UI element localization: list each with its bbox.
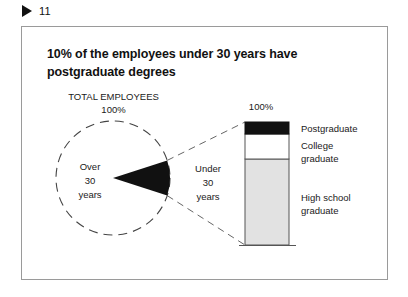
bar-segment-highschool: [245, 159, 289, 245]
bar-chart-caption: 100%: [228, 101, 294, 112]
pie-slice-under-30: [113, 160, 170, 195]
pie-label-under-30: Under 30 years: [183, 162, 233, 203]
legend-label-college-line2: graduate: [301, 153, 339, 166]
legend-label-highschool-line2: graduate: [301, 205, 351, 218]
bar-segment-postgraduate: [245, 122, 289, 134]
legend-label-postgraduate: Postgraduate: [301, 123, 358, 136]
legend-label-highschool-line1: High school: [301, 192, 351, 205]
legend-label-highschool: High school graduate: [301, 192, 351, 218]
pie-label-under-30-line3: years: [183, 190, 233, 204]
pie-label-over-30-line3: years: [62, 188, 118, 202]
chart-artwork: [0, 0, 408, 297]
pie-label-over-30: Over 30 years: [62, 160, 118, 201]
pie-label-under-30-line1: Under: [183, 162, 233, 176]
slide-page: 11 10% of the employees under 30 years h…: [0, 0, 408, 297]
pie-label-over-30-line1: Over: [62, 160, 118, 174]
pie-label-over-30-line2: 30: [62, 174, 118, 188]
bar-segment-college: [245, 134, 289, 159]
legend-label-college: College graduate: [301, 140, 339, 166]
callout-line-top: [167, 122, 245, 160]
legend-label-college-line1: College: [301, 140, 339, 153]
pie-label-under-30-line2: 30: [183, 176, 233, 190]
